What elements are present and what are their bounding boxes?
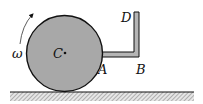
rod-horizontal	[100, 12, 139, 57]
label-point-a: A	[97, 62, 107, 77]
rolling-disk-diagram: ω C A B D	[0, 0, 203, 104]
label-point-b: B	[135, 62, 146, 77]
center-point	[64, 52, 67, 55]
label-omega: ω	[12, 46, 23, 61]
label-point-d: D	[120, 10, 132, 25]
ground-hatch	[10, 92, 194, 101]
label-center-c: C	[53, 46, 63, 61]
